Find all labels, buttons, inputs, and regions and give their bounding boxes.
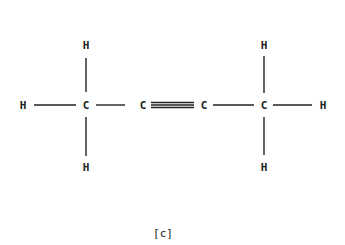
atom-c4: C (261, 99, 268, 112)
triple-bond-c2-c3 (151, 103, 194, 108)
atom-c2: C (140, 99, 147, 112)
atom-h-c4-top: H (261, 39, 268, 52)
structural-formula-diagram: H C H H C C C H H H [c] (0, 0, 345, 245)
bonds (34, 56, 312, 156)
atom-c3: C (201, 99, 208, 112)
atom-h-c1-bottom: H (83, 161, 90, 174)
atom-h-left: H (20, 99, 27, 112)
atom-c1: C (83, 99, 90, 112)
atoms: H C H H C C C H H H (20, 39, 327, 174)
atom-h-c4-bottom: H (261, 161, 268, 174)
figure-caption: [c] (153, 227, 173, 240)
atom-h-c1-top: H (83, 39, 90, 52)
atom-h-right: H (320, 99, 327, 112)
